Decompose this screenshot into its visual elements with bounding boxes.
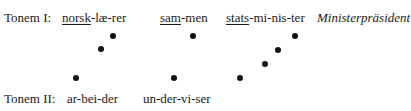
word-arbeider: ar-bei-der (67, 91, 118, 106)
gloss-ministerpraesident: Ministerpräsident (317, 10, 410, 25)
pitch-dot (237, 75, 243, 81)
unstressed-syllables: -men (181, 10, 208, 25)
pitch-dot (262, 61, 268, 67)
stressed-syllable: sam (160, 10, 181, 25)
stressed-syllable: norsk (62, 10, 91, 25)
pitch-dot (171, 75, 177, 81)
pitch-dot (110, 33, 116, 39)
pitch-dot (190, 33, 196, 39)
pitch-dot (275, 47, 281, 53)
word-sammen: sam-men (160, 10, 208, 25)
word-norsklaerer: norsk-læ-rer (62, 10, 126, 25)
tonem-2-label: Tonem II: (4, 91, 55, 106)
word-statsminister: stats-mi-nis-ter (226, 10, 305, 25)
unstressed-syllables: -læ-rer (91, 10, 126, 25)
stressed-syllable: stats (226, 10, 249, 25)
word-underviser: un-der-vi-ser (143, 91, 211, 106)
pitch-dot (98, 46, 104, 52)
pitch-dot (73, 75, 79, 81)
tonem-1-label: Tonem I: (4, 10, 51, 25)
unstressed-syllables: -mi-nis-ter (249, 10, 305, 25)
pitch-dot (292, 33, 298, 39)
